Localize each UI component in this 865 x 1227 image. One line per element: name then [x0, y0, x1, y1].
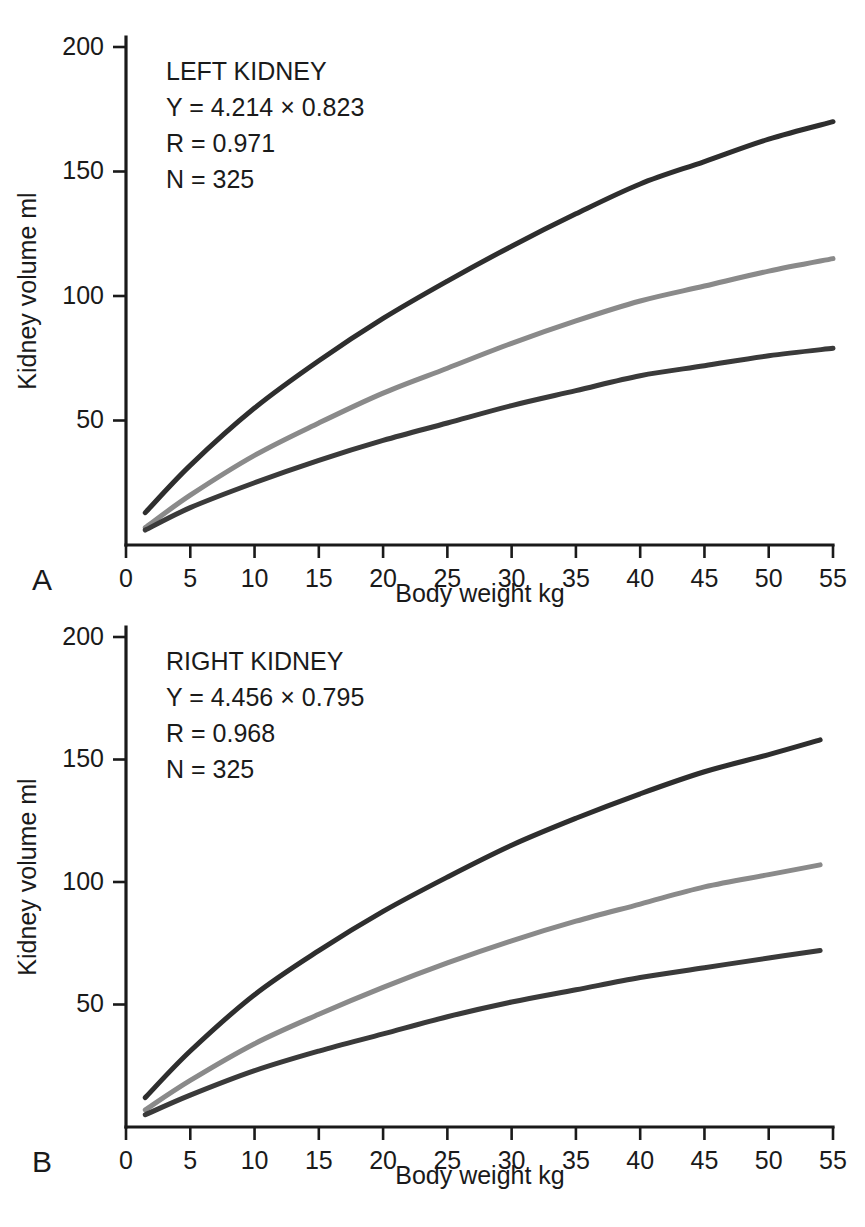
y-tick-label: 150 [62, 744, 104, 772]
y-axis-title-b: Kidney volume ml [13, 778, 41, 975]
x-tick-label: 15 [305, 1146, 333, 1174]
annotation-r-a: R = 0.971 [166, 129, 275, 157]
chart-svg-b: 50100150200 0510152025303540455055 Body … [0, 600, 865, 1200]
chart-svg-a: 50100150200 0510152025303540455055 Body … [0, 10, 865, 610]
x-tick-label: 45 [691, 564, 719, 592]
annotation-block-b: RIGHT KIDNEY Y = 4.456 × 0.795 R = 0.968… [166, 647, 364, 783]
plot-area-b: 50100150200 0510152025303540455055 Body … [0, 600, 865, 1200]
annotation-equation-a: Y = 4.214 × 0.823 [166, 93, 364, 121]
y-axis-title-a: Kidney volume ml [13, 192, 41, 389]
annotation-n-b: N = 325 [166, 755, 254, 783]
x-tick-label: 0 [119, 564, 133, 592]
curve-upper-prediction-band [145, 740, 820, 1098]
y-tick-label: 200 [62, 622, 104, 650]
annotation-title-b: RIGHT KIDNEY [166, 647, 344, 675]
y-tick-group-b: 50100150200 [62, 622, 126, 1018]
annotation-title-a: LEFT KIDNEY [166, 57, 327, 85]
chart-panel-a: 50100150200 0510152025303540455055 Body … [0, 10, 865, 610]
curve-group-b [145, 740, 820, 1115]
y-axis-group-a: 50100150200 [62, 32, 126, 545]
y-tick-label: 200 [62, 32, 104, 60]
y-tick-group-a: 50100150200 [62, 32, 126, 434]
x-tick-label: 55 [819, 1146, 847, 1174]
y-tick-label: 150 [62, 156, 104, 184]
panel-letter-b: B [32, 1145, 52, 1178]
x-tick-label: 5 [183, 1146, 197, 1174]
x-tick-label: 10 [241, 564, 269, 592]
y-tick-label: 50 [76, 405, 104, 433]
y-tick-label: 50 [76, 989, 104, 1017]
x-tick-label: 15 [305, 564, 333, 592]
y-tick-label: 100 [62, 281, 104, 309]
x-tick-label: 50 [755, 1146, 783, 1174]
panel-letter-a: A [32, 563, 52, 596]
y-axis-group-b: 50100150200 [62, 622, 126, 1127]
annotation-r-b: R = 0.968 [166, 719, 275, 747]
plot-area-a: 50100150200 0510152025303540455055 Body … [0, 10, 865, 610]
x-tick-label: 50 [755, 564, 783, 592]
y-tick-label: 100 [62, 867, 104, 895]
x-tick-label: 20 [369, 1146, 397, 1174]
annotation-equation-b: Y = 4.456 × 0.795 [166, 683, 364, 711]
x-tick-label: 0 [119, 1146, 133, 1174]
annotation-n-a: N = 325 [166, 165, 254, 193]
x-tick-label: 10 [241, 1146, 269, 1174]
x-tick-label: 40 [626, 1146, 654, 1174]
x-tick-label: 55 [819, 564, 847, 592]
x-axis-title-b: Body weight kg [395, 1161, 565, 1189]
x-tick-label: 5 [183, 564, 197, 592]
curve-lower-prediction-band [145, 348, 833, 530]
x-tick-label: 35 [562, 564, 590, 592]
curve-lower-prediction-band [145, 951, 820, 1115]
x-tick-label: 45 [691, 1146, 719, 1174]
x-tick-label: 35 [562, 1146, 590, 1174]
x-tick-label: 20 [369, 564, 397, 592]
x-tick-label: 40 [626, 564, 654, 592]
annotation-block-a: LEFT KIDNEY Y = 4.214 × 0.823 R = 0.971 … [166, 57, 364, 193]
chart-panel-b: 50100150200 0510152025303540455055 Body … [0, 600, 865, 1200]
